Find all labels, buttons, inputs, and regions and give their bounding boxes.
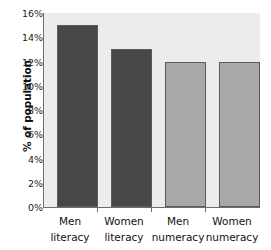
bar-chart: % of population 16%14%12%10%8%6%4%2%0% M… [0, 0, 271, 250]
bars-layer [44, 13, 260, 207]
plot-area [43, 13, 260, 208]
x-axis-tick-label-line: literacy [97, 229, 151, 245]
bar [219, 62, 260, 208]
y-axis-tick-label: 16% [11, 8, 43, 19]
x-axis-tick-mark [151, 208, 152, 212]
x-axis-tick-labels: MenliteracyWomenliteracyMennumeracyWomen… [43, 213, 260, 250]
x-axis-tick-label-line: Men [43, 213, 97, 229]
y-axis-tick-label: 12% [11, 56, 43, 67]
bar [111, 49, 152, 207]
x-axis-tick-label: Womennumeracy [205, 213, 259, 245]
x-axis-tick-label: Mennumeracy [151, 213, 205, 245]
y-axis-tick-label: 0% [11, 202, 43, 213]
y-axis-tick-label: 10% [11, 80, 43, 91]
bar [165, 62, 206, 208]
y-axis-tick-label: 8% [11, 105, 43, 116]
y-axis-tick-label: 4% [11, 153, 43, 164]
bar [57, 25, 98, 207]
x-axis-tick-label-line: numeracy [205, 229, 259, 245]
y-axis-tick-label: 2% [11, 177, 43, 188]
x-axis-tick-label: Menliteracy [43, 213, 97, 245]
x-axis-tick-label-line: Women [97, 213, 151, 229]
x-axis-tick-label-line: Men [151, 213, 205, 229]
x-axis-tick-label-line: numeracy [151, 229, 205, 245]
x-axis-tick-mark [97, 208, 98, 212]
y-axis-tick-label: 14% [11, 32, 43, 43]
y-axis-tick-label: 6% [11, 129, 43, 140]
x-axis-tick-label-line: literacy [43, 229, 97, 245]
x-axis-tick-mark [205, 208, 206, 212]
x-axis-tick-label: Womenliteracy [97, 213, 151, 245]
x-axis-tick-label-line: Women [205, 213, 259, 229]
y-axis-tick-labels: 16%14%12%10%8%6%4%2%0% [0, 13, 43, 208]
